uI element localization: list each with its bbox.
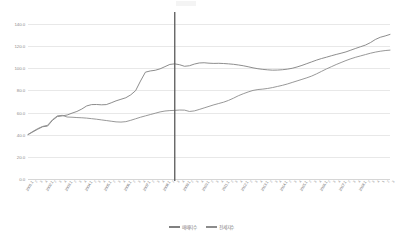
series-line: [28, 34, 390, 134]
x-axis-tick-label: 3: [352, 180, 356, 184]
y-axis-tick-label: 40.0: [17, 132, 25, 137]
x-axis-tick-label: 2: [347, 180, 351, 184]
x-axis-tick-label: 2: [151, 180, 155, 184]
x-axis-tick-label: 2: [34, 180, 38, 184]
x-axis-tick-label: 3: [39, 180, 43, 184]
x-axis-tick-label: 3: [332, 180, 336, 184]
legend-item[interactable]: 전세지수: [206, 224, 234, 230]
y-axis-tick-label: 100.0: [15, 66, 26, 71]
y-axis-tick-label: 20.0: [17, 154, 25, 159]
x-axis-tick-label: 3: [391, 180, 395, 184]
x-axis-tick-label: 3: [137, 180, 141, 184]
x-axis-tick-label: 1: [381, 180, 385, 184]
plot-area: 0.020.040.060.080.0100.0120.0140.0: [28, 24, 390, 179]
x-axis-tick-label: 2: [171, 180, 175, 184]
y-axis-tick-label: 120.0: [15, 44, 26, 49]
x-axis-tick-label: 2: [308, 180, 312, 184]
x-axis-tick-label: 2: [269, 180, 273, 184]
x-axis-tick-label: 3: [117, 180, 121, 184]
chart-title-placeholder: [176, 1, 196, 6]
legend-label: 전세지수: [219, 224, 234, 230]
x-axis-tick-labels: 2001.12342002.12342003.12342004.12342005…: [28, 180, 390, 212]
x-axis-tick-label: 3: [313, 180, 317, 184]
x-axis-tick-label: 2: [210, 180, 214, 184]
x-axis-tick-label: 3: [254, 180, 258, 184]
x-axis-tick-label: 2: [288, 180, 292, 184]
x-axis-tick-label: 2001.1: [25, 180, 35, 192]
series-lines: [28, 24, 390, 179]
legend-item[interactable]: 매매지수: [169, 224, 197, 230]
x-axis-tick-label: 2: [386, 180, 390, 184]
x-axis-tick-label: 3: [78, 180, 82, 184]
x-axis-tick-label: 3: [293, 180, 297, 184]
y-axis-tick-label: 80.0: [17, 88, 25, 93]
legend-label: 매매지수: [182, 224, 197, 230]
y-axis-tick-label: 60.0: [17, 110, 25, 115]
legend-color-swatch: [169, 226, 180, 227]
x-axis-tick-label: 2: [132, 180, 136, 184]
x-axis-tick-label: 2: [73, 180, 77, 184]
chart-legend: 매매지수전세지수: [0, 224, 403, 230]
x-axis-tick-label: 2: [249, 180, 253, 184]
x-axis-tick-label: 3: [176, 180, 180, 184]
x-axis-tick-label: 2: [112, 180, 116, 184]
chart-container: 0.020.040.060.080.0100.0120.0140.0 2001.…: [0, 0, 403, 237]
x-axis-tick-label: 3: [156, 180, 160, 184]
y-axis-tick-label: 140.0: [15, 22, 26, 27]
x-axis-tick-label: 3: [215, 180, 219, 184]
y-axis-tick-label: 0.0: [19, 177, 25, 182]
legend-color-swatch: [206, 226, 217, 227]
